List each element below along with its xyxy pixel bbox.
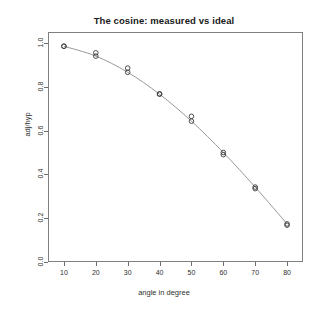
plot-root: The cosine: measured vs ideal 1020304050…	[0, 0, 328, 310]
data-layer	[0, 0, 328, 310]
series-markers	[62, 44, 290, 228]
y-axis-label: adj/hyp	[23, 95, 32, 155]
measured-data-point	[189, 114, 194, 119]
ideal-series-line	[64, 46, 287, 224]
x-axis-label: angle in degree	[0, 288, 328, 297]
measured-data-point	[94, 51, 99, 56]
ideal-curve-path	[64, 46, 287, 224]
